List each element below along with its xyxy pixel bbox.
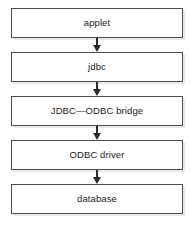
arrow-down-icon (93, 45, 101, 52)
flow-connector-jdbc-to-bridge (11, 82, 183, 96)
flow-node-label: jdbc (88, 62, 106, 72)
flow-node-database: database (11, 184, 183, 214)
flow-node-odbc-driver: ODBC driver (11, 140, 183, 170)
flow-node-label: ODBC driver (70, 150, 125, 160)
flow-node-applet: applet (11, 8, 183, 38)
arrow-down-icon (93, 177, 101, 184)
flow-node-jdbc: jdbc (11, 52, 183, 82)
flow-connector-applet-to-jdbc (11, 38, 183, 52)
flow-node-jdbc-odbc-bridge: JDBC—ODBC bridge (11, 96, 183, 126)
arrow-down-icon (93, 89, 101, 96)
arrow-down-icon (93, 133, 101, 140)
flow-node-label: database (77, 194, 117, 204)
flow-node-label: JDBC—ODBC bridge (51, 106, 143, 116)
flow-node-label: applet (84, 18, 110, 28)
flow-connector-bridge-to-odbc-driver (11, 126, 183, 140)
flow-connector-odbc-driver-to-database (11, 170, 183, 184)
flowchart-diagram: applet jdbc JDBC—ODBC bridge ODBC driver… (0, 0, 191, 236)
